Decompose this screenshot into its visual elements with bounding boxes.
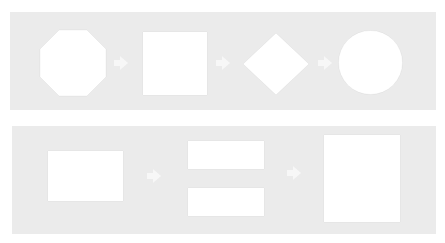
top-bar-shape xyxy=(188,141,264,169)
portrait-rectangle-shape xyxy=(324,135,400,222)
diamond-shape xyxy=(243,33,309,95)
circle-shape xyxy=(338,30,403,95)
square-shape xyxy=(143,32,207,95)
octagon-shape xyxy=(40,30,106,96)
landscape-rectangle-shape xyxy=(48,151,123,201)
bottom-bar-shape xyxy=(188,188,264,216)
